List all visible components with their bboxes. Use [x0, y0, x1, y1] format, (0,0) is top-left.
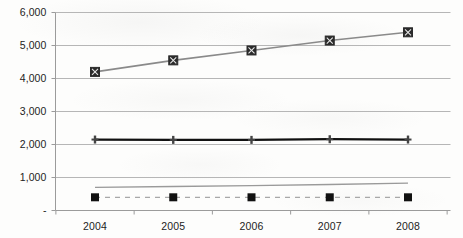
- data-point-marker: [248, 193, 256, 201]
- series-line: [95, 183, 408, 187]
- series-4-group: [91, 193, 412, 201]
- y-axis-tick-label: 6,000: [0, 6, 47, 18]
- chart-container: -1,0002,0003,0004,0005,0006,000 20042005…: [0, 0, 463, 238]
- y-axis-tick-label: 1,000: [0, 171, 47, 183]
- y-axis-tick-label: -: [0, 204, 47, 216]
- x-axis-tick-label: 2007: [300, 220, 360, 232]
- y-axis-tick-marks: [52, 13, 56, 211]
- x-axis-tick-label: 2005: [143, 220, 203, 232]
- y-axis-tick-label: 5,000: [0, 39, 47, 51]
- data-point-marker: [404, 193, 412, 201]
- data-series: [91, 28, 413, 202]
- y-axis-tick-label: 3,000: [0, 105, 47, 117]
- line-chart-plot: [0, 0, 463, 238]
- x-axis-tick-label: 2006: [222, 220, 282, 232]
- data-point-marker: [326, 193, 334, 201]
- y-axis-tick-label: 4,000: [0, 72, 47, 84]
- data-point-marker: [91, 193, 99, 201]
- series-3-group: [95, 183, 408, 187]
- x-axis-tick-label: 2004: [65, 220, 125, 232]
- data-point-marker: [169, 193, 177, 201]
- x-axis-tick-marks: [56, 211, 447, 215]
- gridlines: [56, 13, 451, 178]
- series-2-group: [92, 135, 412, 144]
- series-1-group: [91, 28, 413, 77]
- y-axis-tick-label: 2,000: [0, 138, 47, 150]
- x-axis-tick-label: 2008: [378, 220, 438, 232]
